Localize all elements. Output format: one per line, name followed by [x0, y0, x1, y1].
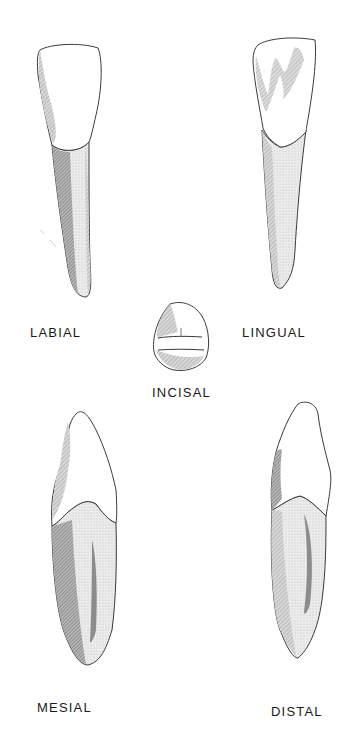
distal-label: DISTAL — [271, 704, 323, 719]
lingual-label: LINGUAL — [242, 325, 306, 340]
labial-label: LABIAL — [30, 325, 81, 340]
distal-view: DISTAL — [180, 380, 360, 725]
mesial-tooth-drawing — [0, 380, 180, 725]
mesial-label: MESIAL — [37, 700, 92, 715]
mesial-view: MESIAL — [0, 380, 180, 725]
distal-tooth-drawing — [180, 380, 360, 725]
